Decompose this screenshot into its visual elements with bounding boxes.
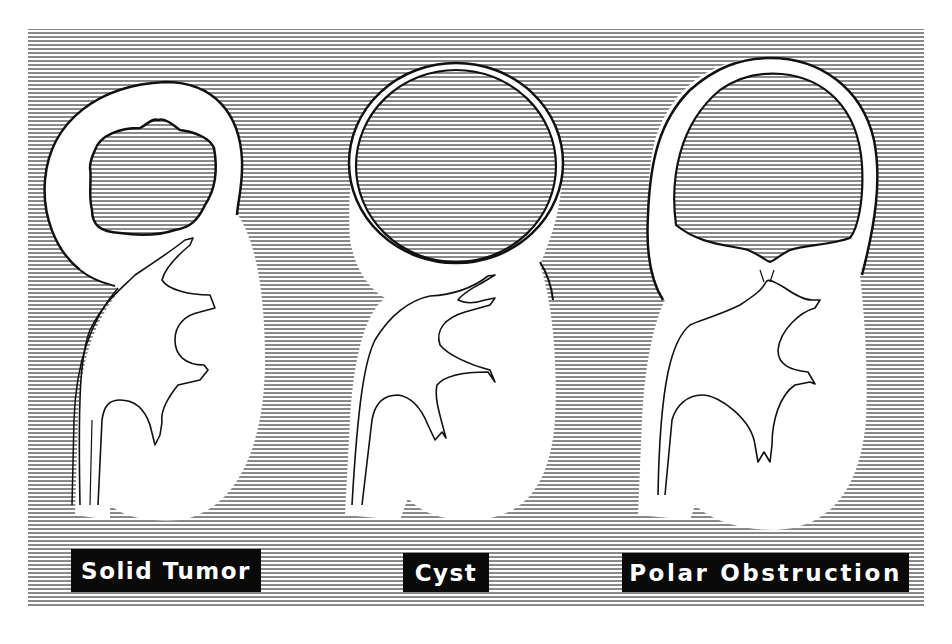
label-polar-obstruction: Polar Obstruction bbox=[622, 553, 909, 592]
label-cyst: Cyst bbox=[403, 553, 489, 592]
panel-polar-obstruction bbox=[638, 58, 878, 530]
panel-cyst bbox=[345, 63, 563, 520]
diagram-canvas bbox=[0, 0, 952, 644]
label-solid-tumor: Solid Tumor bbox=[71, 549, 261, 592]
tumor-mass bbox=[90, 120, 216, 235]
cyst-lumen bbox=[356, 70, 556, 262]
